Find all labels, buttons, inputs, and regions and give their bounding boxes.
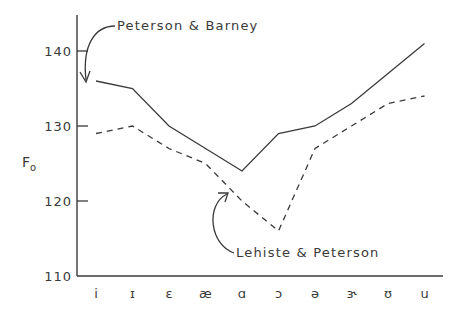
x-category-label: æ xyxy=(199,286,212,301)
y-tick-label: 140 xyxy=(44,44,72,59)
annotation-lehiste-peterson: Lehiste & Peterson xyxy=(236,245,380,260)
series-lines xyxy=(96,44,425,232)
x-category-label: ɔ xyxy=(275,286,282,301)
f0-vowel-chart: 110120130140iɪɛæɑɔəɝʊu Peterson & Barney… xyxy=(0,0,459,323)
series-peterson-barney xyxy=(96,44,425,172)
y-tick-label: 120 xyxy=(44,194,72,209)
annotations: Peterson & Barney Lehiste & Peterson xyxy=(80,18,380,260)
annotation-peterson-barney: Peterson & Barney xyxy=(117,18,259,33)
x-category-label: ɝ xyxy=(346,286,357,301)
series-lehiste-peterson xyxy=(96,96,425,231)
x-category-label: ʊ xyxy=(384,286,392,301)
x-category-label: u xyxy=(420,286,428,301)
x-category-label: ɛ xyxy=(165,286,172,301)
x-category-label: ə xyxy=(311,286,319,301)
x-category-label: ɑ xyxy=(238,286,246,301)
x-category-label: i xyxy=(94,286,98,301)
x-category-label: ɪ xyxy=(130,286,135,301)
y-tick-label: 110 xyxy=(44,269,72,284)
y-tick-label: 130 xyxy=(44,119,72,134)
arrow-lehiste-peterson xyxy=(213,194,234,253)
y-axis-label: Fo xyxy=(22,154,36,173)
